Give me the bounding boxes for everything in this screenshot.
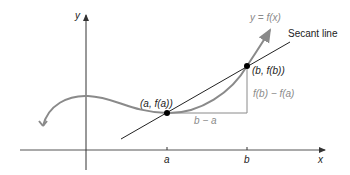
point-a-label: (a, f(a))	[140, 98, 173, 109]
rise-label: f(b) − f(a)	[253, 88, 294, 99]
y-axis-label: y	[74, 10, 81, 21]
x-axis-label: x	[317, 154, 324, 165]
point-a	[164, 110, 170, 116]
function-curve	[43, 30, 270, 126]
secant-label: Secant line	[288, 28, 338, 39]
curve-label: y = f(x)	[249, 12, 281, 23]
point-b-label: (b, f(b))	[252, 65, 285, 76]
secant-diagram: y x a b y = f(x) Secant line (a, f(a)) (…	[0, 0, 350, 175]
run-label: b − a	[194, 115, 217, 126]
tick-a-label: a	[164, 154, 170, 165]
point-b	[244, 63, 250, 69]
tick-b-label: b	[244, 154, 250, 165]
